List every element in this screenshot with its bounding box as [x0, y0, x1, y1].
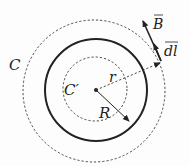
label-B: B	[152, 16, 163, 32]
label-r: r	[109, 69, 117, 85]
label-dl: dl	[164, 43, 177, 59]
label-R: R	[98, 104, 110, 122]
radius-r-arrow	[96, 63, 160, 90]
ampere-loop-diagram: C C′ r R B dl	[0, 0, 189, 166]
label-C: C	[9, 56, 21, 74]
label-C-prime: C′	[64, 81, 79, 99]
diagram-canvas: C C′ r R B dl	[0, 0, 189, 166]
